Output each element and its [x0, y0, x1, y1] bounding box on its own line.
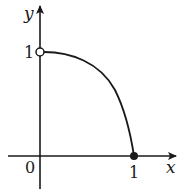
function-graph: y x 0 1 1 — [0, 0, 189, 189]
y-tick-label-1: 1 — [24, 43, 34, 62]
y-axis-label: y — [23, 3, 34, 23]
x-tick-label-1: 1 — [129, 163, 139, 182]
function-curve — [44, 52, 134, 156]
origin-label: 0 — [25, 158, 35, 177]
closed-point-icon — [130, 152, 138, 160]
open-point-icon — [36, 48, 44, 56]
x-axis-label: x — [166, 157, 176, 177]
